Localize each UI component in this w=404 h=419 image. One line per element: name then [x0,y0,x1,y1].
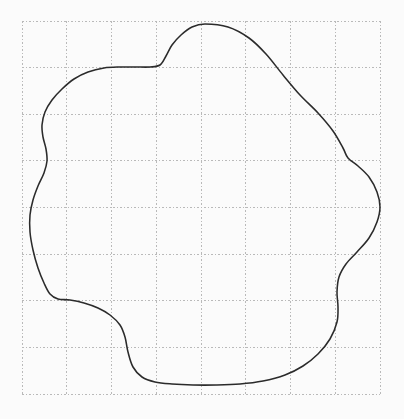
canvas-background [0,0,404,419]
grid-and-curve-svg [0,0,404,419]
figure-canvas [0,0,404,419]
